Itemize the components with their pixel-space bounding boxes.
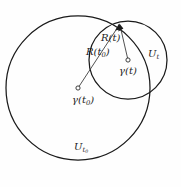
label-radius-t0-sub: 0: [101, 51, 105, 59]
label-set-t0-sub: t0: [82, 146, 88, 154]
geometric-figure: R(t) R(t0) γ(t) γ(t0) Ut Ut0: [0, 0, 181, 187]
label-set-t-sub: t: [156, 53, 159, 61]
label-set-t: Ut: [148, 49, 159, 59]
label-radius-t0: R(t0): [86, 47, 110, 57]
label-gamma-t0: γ(t0): [72, 95, 94, 105]
label-gamma-t0-base: γ(t: [72, 94, 86, 105]
label-set-t0: Ut0: [74, 142, 88, 152]
label-radius-t0-close: ): [106, 46, 110, 57]
label-radius-t: R(t): [101, 33, 120, 43]
label-gamma-t: γ(t): [119, 66, 137, 76]
label-gamma-t0-close: ): [90, 94, 94, 105]
label-set-t0-sub-zero: 0: [85, 149, 88, 154]
center-marker-gamma-t: [126, 58, 130, 62]
center-marker-gamma-t0: [76, 86, 80, 90]
label-radius-t0-base: R(t: [86, 46, 101, 57]
label-gamma-t0-sub: 0: [86, 99, 90, 107]
